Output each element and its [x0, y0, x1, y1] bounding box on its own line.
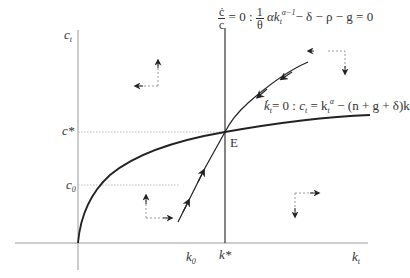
y-axis-label: ct	[64, 28, 72, 44]
direction-arrows-lower-right	[295, 193, 317, 215]
c-star-label: c*	[62, 124, 74, 137]
direction-arrows-upper-left	[137, 62, 158, 86]
direction-arrows-upper-right	[310, 51, 345, 72]
direction-arrows-lower-left	[146, 197, 170, 218]
k-star-label: k*	[219, 248, 231, 261]
c-dot-locus-equation: ċc = 0 : 1θ αktα−1− δ − ρ − g = 0	[218, 6, 373, 31]
equilibrium-label: E	[230, 136, 238, 149]
saddle-arrow-icon	[198, 172, 203, 182]
saddle-arrow-icon	[183, 202, 188, 212]
x-axis-label: kt	[352, 250, 360, 266]
k-zero-label: k0	[186, 250, 196, 266]
k-dot-locus-equation: k̇t= 0 : ct = ktα − (n + g + δ)k	[264, 98, 410, 115]
c-zero-label: c0	[66, 178, 76, 194]
